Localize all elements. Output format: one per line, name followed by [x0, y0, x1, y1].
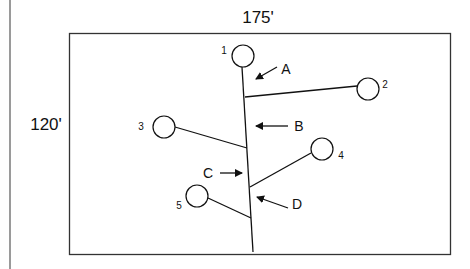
- segment-a-callout: A: [256, 61, 291, 79]
- branch-line-5: [208, 198, 251, 218]
- node-circle: [232, 45, 254, 67]
- branch-line-4: [250, 153, 311, 187]
- segment-label-b: B: [294, 118, 303, 134]
- branch-line-2: [245, 86, 357, 97]
- branch-line-3: [175, 127, 247, 148]
- segment-label-c: C: [203, 165, 213, 181]
- segment-label-a: A: [281, 61, 291, 77]
- node-label: 2: [382, 79, 388, 90]
- node-label: 5: [176, 200, 182, 211]
- piping-layout-diagram: 175' 120' 1 2 3 4 5 A B C D: [0, 0, 470, 269]
- node-circle: [153, 116, 175, 138]
- node-label: 3: [138, 121, 144, 132]
- node-label: 1: [221, 45, 227, 56]
- height-dimension-label: 120': [30, 115, 62, 134]
- lot-boundary: [70, 34, 451, 255]
- node-2: 2: [357, 78, 388, 100]
- arrow-d-icon: [257, 197, 288, 208]
- node-circle: [357, 78, 379, 100]
- node-4: 4: [311, 138, 344, 161]
- node-3: 3: [138, 116, 175, 138]
- node-1: 1: [221, 45, 254, 67]
- width-dimension-label: 175': [242, 8, 274, 27]
- node-circle: [186, 185, 208, 207]
- node-5: 5: [176, 185, 208, 211]
- segment-c-callout: C: [203, 165, 242, 181]
- main-trunk-line: [242, 67, 253, 252]
- segment-d-callout: D: [257, 196, 302, 212]
- segment-label-d: D: [292, 196, 302, 212]
- node-label: 4: [338, 150, 344, 161]
- node-circle: [311, 138, 333, 160]
- segment-b-callout: B: [256, 118, 304, 134]
- arrow-a-icon: [256, 67, 277, 79]
